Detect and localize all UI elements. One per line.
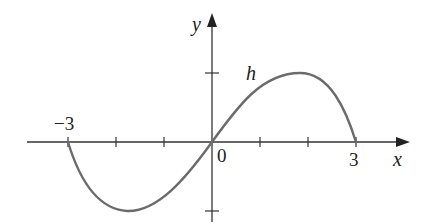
curve-label-h: h (246, 62, 256, 84)
x-axis-label: x (392, 148, 402, 170)
function-graph: −3 0 3 x y h (0, 0, 431, 224)
tick-label-3: 3 (349, 149, 359, 170)
x-axis-arrow-icon (396, 137, 410, 147)
tick-label-neg3: −3 (54, 113, 74, 134)
tick-label-zero: 0 (217, 145, 227, 166)
y-axis-label: y (190, 13, 201, 36)
y-axis-arrow-icon (207, 13, 217, 27)
